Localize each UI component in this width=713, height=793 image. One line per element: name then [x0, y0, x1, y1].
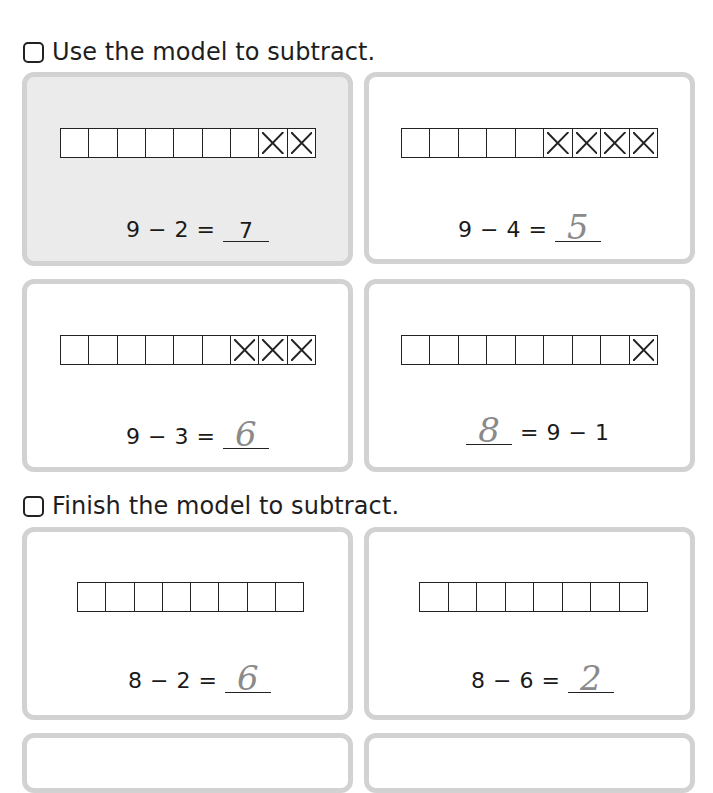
eight-box-model	[419, 582, 648, 612]
cross-icon	[604, 132, 625, 154]
empty-box	[146, 336, 174, 364]
equation: 8−6=2	[467, 664, 618, 693]
empty-box	[477, 583, 506, 611]
cross-icon	[262, 132, 283, 154]
operator: =	[198, 668, 216, 693]
problem-card-2: 9−4=5	[364, 72, 695, 264]
empty-box	[276, 583, 303, 611]
crossed-box	[288, 336, 315, 364]
equation: 8=9−1	[462, 416, 613, 445]
number: 1	[595, 420, 609, 445]
empty-box	[78, 583, 106, 611]
empty-box	[459, 336, 487, 364]
empty-box	[516, 336, 544, 364]
empty-box	[430, 129, 458, 157]
crossed-box	[259, 336, 287, 364]
empty-box	[402, 129, 430, 157]
operator: =	[528, 217, 546, 242]
number: 3	[174, 424, 188, 449]
empty-box	[248, 583, 276, 611]
number: 9	[458, 217, 472, 242]
problem-card-6: 8−6=2	[364, 527, 695, 720]
empty-box	[174, 336, 202, 364]
cross-icon	[291, 132, 312, 154]
empty-box	[174, 129, 202, 157]
empty-box	[591, 583, 620, 611]
number: 8	[128, 668, 142, 693]
crossed-box	[630, 336, 657, 364]
answer-blank[interactable]: 8	[466, 416, 512, 445]
cross-icon	[291, 339, 312, 361]
empty-box	[620, 583, 648, 611]
empty-box	[402, 336, 430, 364]
empty-box	[203, 129, 231, 157]
empty-box	[563, 583, 592, 611]
empty-box	[118, 129, 146, 157]
problem-card-1: 9−2=7	[22, 72, 353, 266]
empty-box	[487, 336, 515, 364]
empty-box	[135, 583, 163, 611]
empty-box	[459, 129, 487, 157]
crossed-box	[573, 129, 601, 157]
problem-card-3: 9−3=6	[22, 279, 353, 472]
empty-box	[203, 336, 231, 364]
problem-card-5: 8−2=6	[22, 527, 353, 720]
operator: −	[148, 217, 166, 242]
empty-box	[231, 129, 259, 157]
task-checkbox[interactable]	[23, 42, 44, 63]
empty-box	[487, 129, 515, 157]
heading-text: Use the model to subtract.	[52, 38, 375, 66]
answer-value: 7	[223, 218, 269, 243]
answer-value: 5	[555, 207, 601, 247]
answer-blank[interactable]: 2	[568, 664, 614, 693]
empty-box	[191, 583, 219, 611]
answer-blank[interactable]: 7	[223, 213, 269, 242]
empty-box	[219, 583, 247, 611]
ten-frame-model	[60, 335, 316, 365]
number: 9	[126, 217, 140, 242]
ten-frame-model	[401, 128, 658, 158]
operator: =	[541, 668, 559, 693]
cross-icon	[234, 339, 255, 361]
answer-value: 6	[225, 658, 271, 698]
cross-icon	[633, 339, 654, 361]
empty-box	[61, 129, 89, 157]
equation: 9−2=7	[122, 213, 273, 242]
crossed-box	[601, 129, 629, 157]
cross-icon	[547, 132, 568, 154]
equation: 8−2=6	[124, 664, 275, 693]
problem-card-4: 8=9−1	[364, 279, 695, 472]
crossed-box	[288, 129, 315, 157]
empty-box	[534, 583, 563, 611]
operator: =	[196, 424, 214, 449]
empty-box	[89, 129, 117, 157]
crossed-box	[630, 129, 657, 157]
empty-box	[430, 336, 458, 364]
operator: −	[568, 420, 586, 445]
number: 2	[176, 668, 190, 693]
answer-blank[interactable]: 6	[223, 420, 269, 449]
equation: 9−4=5	[454, 213, 605, 242]
empty-box	[61, 336, 89, 364]
problem-card-8	[364, 733, 695, 793]
answer-blank[interactable]: 5	[555, 213, 601, 242]
number: 6	[519, 668, 533, 693]
number: 9	[126, 424, 140, 449]
empty-box	[573, 336, 601, 364]
task-checkbox[interactable]	[23, 496, 44, 517]
empty-box	[146, 129, 174, 157]
heading-text: Finish the model to subtract.	[52, 492, 399, 520]
section-heading-use-model: Use the model to subtract.	[23, 38, 375, 66]
empty-box	[163, 583, 191, 611]
empty-box	[106, 583, 134, 611]
crossed-box	[544, 129, 572, 157]
number: 9	[546, 420, 560, 445]
operator: −	[493, 668, 511, 693]
answer-blank[interactable]: 6	[225, 664, 271, 693]
equation: 9−3=6	[122, 420, 273, 449]
crossed-box	[259, 129, 287, 157]
operator: −	[480, 217, 498, 242]
empty-box	[516, 129, 544, 157]
number: 8	[471, 668, 485, 693]
empty-box	[506, 583, 535, 611]
